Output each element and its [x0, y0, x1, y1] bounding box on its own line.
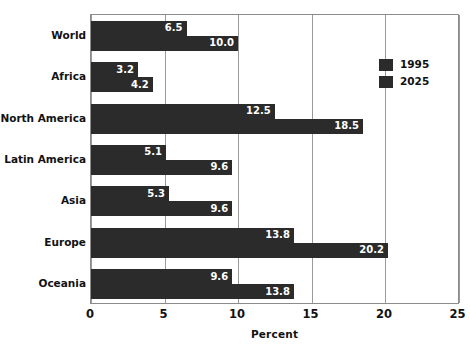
category-label-north-america: North America [0, 113, 86, 124]
gridline-25 [459, 15, 460, 303]
bar-pair: 9.613.8 [91, 264, 458, 305]
x-tick-label-20: 20 [364, 309, 404, 321]
bar-value-label: 13.8 [265, 230, 294, 240]
bar-value-label: 9.6 [210, 272, 232, 282]
bar-pair: 5.39.6 [91, 181, 458, 222]
category-label-europe: Europe [0, 237, 86, 248]
bar-1995: 13.8 [91, 228, 294, 243]
bar-group: 5.19.6 [91, 139, 458, 180]
bar-value-label: 18.5 [334, 121, 363, 131]
legend-label-1995: 1995 [400, 59, 429, 70]
bar-group: 6.510.0 [91, 15, 458, 56]
bar-value-label: 9.6 [210, 162, 232, 172]
category-label-oceania: Oceania [0, 278, 86, 289]
bar-1995: 6.5 [91, 21, 187, 36]
bar-value-label: 5.1 [144, 147, 166, 157]
bar-1995: 3.2 [91, 62, 138, 77]
bar-value-label: 4.2 [131, 80, 153, 90]
bar-value-label: 20.2 [359, 245, 388, 255]
bar-pair: 5.19.6 [91, 139, 458, 180]
bar-value-label: 10.0 [209, 38, 238, 48]
bar-2025: 20.2 [91, 243, 388, 258]
category-label-world: World [0, 30, 86, 41]
bar-group: 5.39.6 [91, 181, 458, 222]
x-tick-label-0: 0 [70, 309, 110, 321]
bar-group: 13.820.2 [91, 222, 458, 263]
legend-item-1995: 1995 [379, 56, 429, 73]
x-tick-label-15: 15 [291, 309, 331, 321]
bar-value-label: 3.2 [116, 65, 138, 75]
bar-pair: 12.518.5 [91, 98, 458, 139]
bar-1995: 5.3 [91, 186, 169, 201]
x-tick-label-10: 10 [217, 309, 257, 321]
bar-2025: 4.2 [91, 77, 153, 92]
chart-title-cropped [96, 0, 376, 2]
x-tick-label-25: 25 [438, 309, 470, 321]
bar-1995: 5.1 [91, 145, 166, 160]
bar-2025: 9.6 [91, 160, 232, 175]
legend-item-2025: 2025 [379, 73, 429, 90]
legend-swatch-1995 [379, 59, 393, 71]
legend-swatch-2025 [379, 76, 393, 88]
bar-2025: 10.0 [91, 36, 238, 51]
bar-1995: 9.6 [91, 269, 232, 284]
bar-2025: 9.6 [91, 201, 232, 216]
bar-group: 12.518.5 [91, 98, 458, 139]
bar-group: 9.613.8 [91, 264, 458, 305]
legend-label-2025: 2025 [400, 76, 429, 87]
bar-value-label: 6.5 [165, 23, 187, 33]
category-label-africa: Africa [0, 71, 86, 82]
bar-pair: 13.820.2 [91, 222, 458, 263]
chart-legend: 19952025 [379, 56, 429, 90]
bar-chart-figure: 6.510.03.24.212.518.55.19.65.39.613.820.… [0, 0, 470, 353]
x-tick-label-5: 5 [144, 309, 184, 321]
category-label-asia: Asia [0, 195, 86, 206]
bar-1995: 12.5 [91, 104, 275, 119]
bar-value-label: 12.5 [246, 106, 275, 116]
bar-value-label: 13.8 [265, 287, 294, 297]
bar-2025: 13.8 [91, 284, 294, 299]
bar-2025: 18.5 [91, 119, 363, 134]
category-label-latin-america: Latin America [0, 154, 86, 165]
bar-value-label: 5.3 [147, 189, 169, 199]
x-axis-title: Percent [90, 328, 459, 340]
bar-pair: 6.510.0 [91, 15, 458, 56]
bar-value-label: 9.6 [210, 204, 232, 214]
